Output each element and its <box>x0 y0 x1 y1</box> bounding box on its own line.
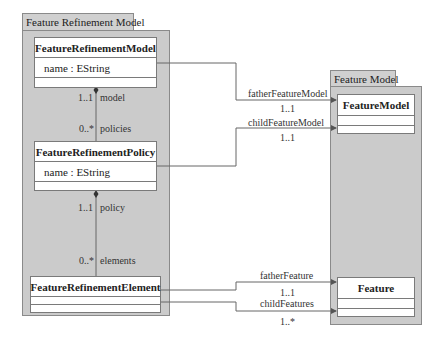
class-attributes <box>31 297 160 305</box>
class-name: FeatureRefinementElement <box>31 277 160 297</box>
composition-diamond-icon <box>94 190 99 198</box>
class-name: Feature <box>338 278 414 299</box>
class-feature-refinement-element[interactable]: FeatureRefinementElement <box>30 276 161 313</box>
role-label: fatherFeature <box>260 270 313 281</box>
multiplicity-label: 0..* <box>79 123 94 134</box>
role-label: childFeatureModel <box>248 117 324 128</box>
class-attribute: name : EString <box>35 58 156 78</box>
role-label: policies <box>100 123 131 134</box>
multiplicity-label: 1..1 <box>280 287 295 298</box>
class-attributes <box>338 299 414 309</box>
role-label: fatherFeatureModel <box>248 88 327 99</box>
multiplicity-label: 1..1 <box>78 92 93 103</box>
role-label: elements <box>100 255 136 266</box>
multiplicity-label: 1..* <box>280 316 295 327</box>
multiplicity-label: 1..1 <box>280 132 295 143</box>
class-attribute: name : EString <box>35 162 156 182</box>
multiplicity-label: 1..1 <box>280 103 295 114</box>
class-operations <box>338 309 414 316</box>
class-operations <box>35 182 156 190</box>
role-label: model <box>100 92 125 103</box>
role-label: policy <box>100 202 125 213</box>
class-operations <box>338 126 414 133</box>
class-name: FeatureRefinementModel <box>35 38 156 58</box>
multiplicity-label: 1..1 <box>78 202 93 213</box>
class-name: FeatureRefinementPolicy <box>35 142 156 162</box>
multiplicity-label: 0..* <box>79 255 94 266</box>
class-name: FeatureModel <box>338 95 414 116</box>
class-operations <box>31 305 160 312</box>
class-feature-refinement-model[interactable]: FeatureRefinementModel name : EString <box>34 37 157 88</box>
class-operations <box>35 78 156 87</box>
class-feature-model[interactable]: FeatureModel <box>337 94 415 134</box>
class-feature-refinement-policy[interactable]: FeatureRefinementPolicy name : EString <box>34 141 157 191</box>
class-feature[interactable]: Feature <box>337 277 415 317</box>
class-attributes <box>338 116 414 126</box>
role-label: childFeatures <box>260 298 314 309</box>
